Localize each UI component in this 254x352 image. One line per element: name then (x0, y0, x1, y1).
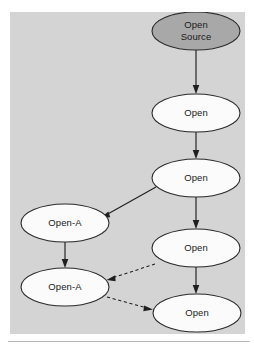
edge-open-to-open-4 (193, 267, 200, 294)
figure-root: Open Source Open Open Open-A (0, 0, 254, 352)
node-open-3[interactable]: Open (152, 229, 240, 267)
edge-open-to-open-a-dashed (107, 264, 156, 281)
node-open-source-label-line1: Open (184, 19, 208, 30)
node-open-3-label: Open (184, 242, 208, 253)
arrowhead-icon (193, 150, 200, 159)
diagram-panel: Open Source Open Open Open-A (10, 12, 245, 334)
edge-open-to-open-2 (193, 132, 200, 159)
edge-open-source-to-open (193, 50, 200, 94)
node-open-source-label-line2: Source (181, 31, 212, 42)
node-open-4[interactable]: Open (153, 294, 241, 332)
footer-divider (8, 341, 250, 342)
node-open-2-label: Open (184, 172, 208, 183)
node-open-a-1-label: Open-A (48, 217, 82, 228)
diagram-canvas: Open Source Open Open Open-A (10, 12, 245, 334)
edge-open-to-open-3 (193, 197, 200, 229)
arrowhead-icon (143, 306, 153, 312)
node-open-source[interactable]: Open Source (152, 12, 240, 50)
node-open-4-label: Open (185, 307, 209, 318)
edge-open-to-open-a (101, 187, 157, 218)
arrowhead-icon (193, 85, 200, 94)
arrowhead-icon (62, 259, 69, 268)
node-open-a-2-label: Open-A (48, 281, 82, 292)
arrowhead-icon (193, 220, 200, 229)
node-open-1[interactable]: Open (152, 94, 240, 132)
node-open-1-label: Open (184, 107, 208, 118)
edge-open-a-to-open-dashed (107, 297, 153, 311)
arrowhead-icon (107, 275, 116, 281)
edge-open-a-to-open-a (62, 242, 69, 268)
node-open-a-1[interactable]: Open-A (21, 204, 109, 242)
node-open-a-2[interactable]: Open-A (21, 268, 109, 306)
node-open-2[interactable]: Open (152, 159, 240, 197)
node-layer: Open Source Open Open Open-A (21, 12, 241, 332)
arrowhead-icon (193, 285, 200, 294)
